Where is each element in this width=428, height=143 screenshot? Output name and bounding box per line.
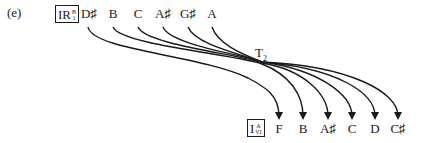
bottom-note-4: C bbox=[348, 122, 357, 135]
arrowhead-2 bbox=[299, 112, 307, 120]
bottom-box-frac: A VI bbox=[255, 123, 261, 135]
arrowhead-4 bbox=[348, 112, 356, 120]
arrowhead-6 bbox=[394, 112, 402, 120]
curve-asharp-to-c bbox=[163, 27, 352, 116]
arrowhead-3 bbox=[324, 112, 332, 120]
mapping-curves bbox=[0, 0, 428, 143]
diagram: (e) IR B 1 D♯ B C A♯ G♯ A T2 bbox=[0, 0, 428, 143]
bottom-box-main: I bbox=[250, 122, 254, 135]
bottom-note-1: F bbox=[275, 122, 282, 135]
bottom-row-box-label: I A VI bbox=[247, 119, 265, 137]
bottom-note-6: C♯ bbox=[390, 122, 405, 135]
bottom-note-3: A♯ bbox=[320, 122, 336, 135]
curve-b-to-b bbox=[113, 27, 303, 116]
bottom-note-2: B bbox=[299, 122, 308, 135]
arrowhead-1 bbox=[275, 112, 283, 120]
bottom-box-sub: VI bbox=[255, 129, 261, 135]
bottom-note-5: D bbox=[370, 122, 379, 135]
arrowhead-5 bbox=[371, 112, 379, 120]
curve-gsharp-to-d bbox=[188, 27, 375, 116]
curve-a-to-csharp bbox=[212, 27, 398, 116]
